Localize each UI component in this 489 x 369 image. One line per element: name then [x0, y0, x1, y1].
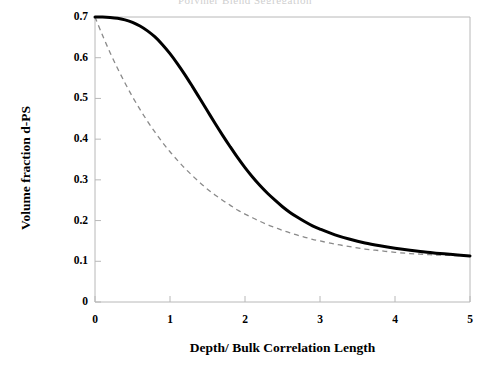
dashed-curve-series [95, 17, 470, 256]
chart-figure: Polymer Blend Segregation Volume fractio… [0, 0, 489, 369]
axis-frame [95, 17, 470, 302]
solid-curve-series [95, 17, 470, 256]
plot-area [0, 0, 489, 369]
y-tick-marks [95, 17, 101, 302]
x-tick-marks [95, 296, 470, 302]
